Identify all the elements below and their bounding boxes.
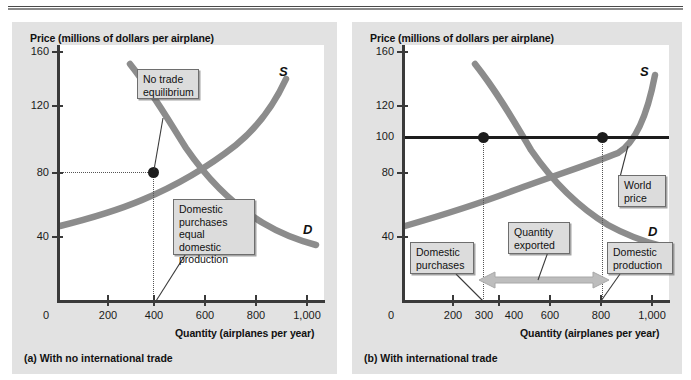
callout-quantity-exported: Quantity exported [508, 222, 570, 254]
callout-domestic-purchases: Domestic purchases [410, 242, 474, 274]
callout-domestic-purchases-equal-production: Domestic purchases equal domestic produc… [173, 199, 255, 255]
panel-international-trade: Price (millions of dollars per airplane)… [352, 22, 682, 374]
panel-b-caption: (b) With international trade [364, 352, 498, 364]
callout-no-trade-equilibrium: No trade equilibrium [137, 69, 199, 99]
top-divider-thin [8, 6, 683, 7]
figure-root: Price (millions of dollars per airplane)… [0, 0, 691, 380]
callout-domestic-production: Domestic production [607, 242, 673, 274]
panel-no-trade: Price (millions of dollars per airplane)… [12, 22, 337, 374]
callout-world-price: World price [618, 175, 666, 207]
panel-a-caption: (a) With no international trade [24, 352, 173, 364]
top-divider [8, 8, 683, 10]
